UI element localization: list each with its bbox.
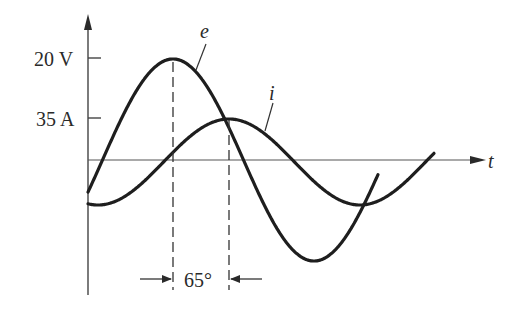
current-curve-i [88, 119, 434, 205]
label-35a: 35 A [36, 108, 75, 130]
label-t: t [488, 150, 494, 172]
e-leader-line [196, 44, 206, 70]
t-axis-arrow-icon [470, 156, 486, 164]
label-i: i [269, 82, 275, 104]
i-leader-line [265, 103, 273, 131]
label-phase-angle: 65° [184, 269, 212, 291]
label-e: e [200, 20, 209, 42]
y-axis-arrow-icon [84, 14, 92, 30]
phase-diagram: 20 V 35 A e i t 65° [0, 0, 511, 311]
label-20v: 20 V [34, 48, 74, 70]
